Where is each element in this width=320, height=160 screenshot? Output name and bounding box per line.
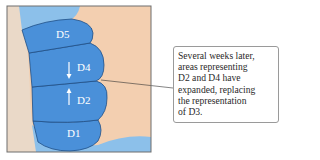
- label-d4: D4: [77, 61, 91, 73]
- callout-line: areas representing: [178, 61, 274, 72]
- label-d1: D1: [67, 127, 80, 139]
- callout-line: Several weeks later,: [178, 50, 274, 61]
- callout-line: expanded, replacing: [178, 84, 274, 95]
- callout-box: Several weeks later, areas representing …: [173, 46, 279, 123]
- callout-line: the representation: [178, 95, 274, 106]
- label-d2: D2: [77, 94, 90, 106]
- callout-line: D2 and D4 have: [178, 72, 274, 83]
- label-d5: D5: [56, 28, 70, 40]
- callout-line: of D3.: [178, 106, 274, 117]
